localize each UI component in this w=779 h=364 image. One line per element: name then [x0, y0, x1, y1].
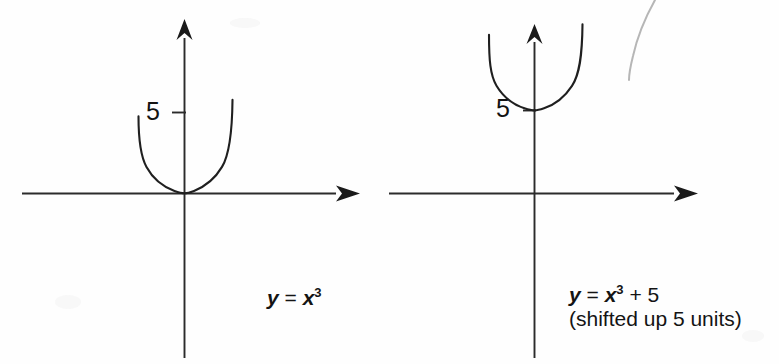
caption-right-y: y [569, 283, 581, 306]
x-axis-arrowhead-left [336, 186, 360, 202]
caption-left-equals: = [279, 286, 303, 309]
caption-right-exponent: 3 [616, 282, 623, 297]
stray-curve-fragment [629, 0, 655, 80]
caption-right-note: (shifted up 5 units) [569, 307, 742, 331]
x-axis-arrowhead-right [674, 186, 698, 202]
caption-right-equation: y = x3 + 5 (shifted up 5 units) [569, 283, 742, 332]
y-tick-label-5-left: 5 [146, 99, 160, 124]
caption-right-tail: + 5 [624, 283, 660, 306]
caption-left-equation: y = x3 [267, 286, 322, 310]
graph-panel-y-equals-x-cubed-plus-5: 5 y = x3 + 5 (shifted up 5 units) [389, 0, 779, 364]
caption-left-x: x [303, 286, 315, 309]
figure-root: 5 y = x3 5 y = x3 + 5 (shifted up 5 unit… [0, 0, 779, 364]
y-tick-label-5-right: 5 [496, 96, 510, 121]
caption-left-exponent: 3 [314, 285, 321, 300]
caption-left-y: y [267, 286, 279, 309]
graph-panel-y-equals-x-cubed: 5 y = x3 [0, 0, 390, 364]
y-axis-arrowhead-right [527, 24, 543, 44]
caption-right-equals: = [581, 283, 605, 306]
y-axis-arrowhead-left [177, 19, 193, 40]
axes-and-curve-left [0, 0, 390, 364]
caption-right-x: x [605, 283, 617, 306]
